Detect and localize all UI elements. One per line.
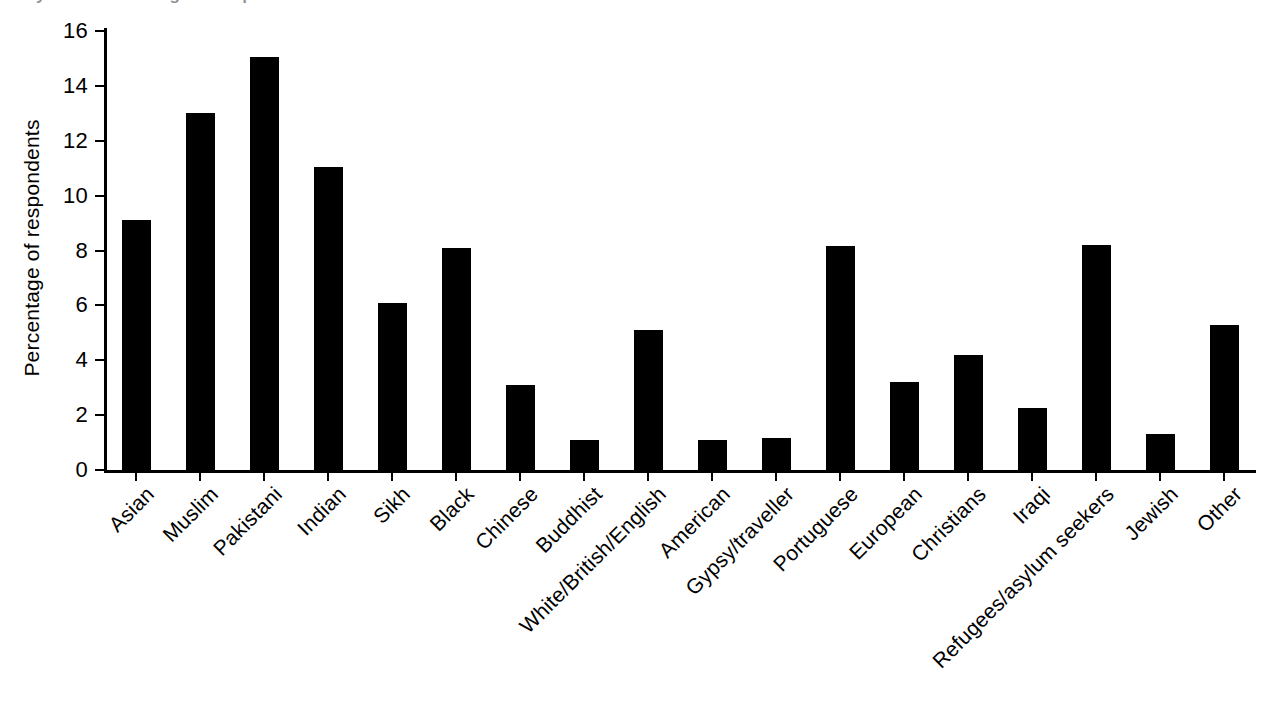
x-axis-labels: AsianMuslimPakistaniIndianSikhBlackChine… (0, 0, 1284, 705)
x-tick-label: Jewish (1166, 436, 1229, 499)
x-tick-label: Indian (334, 441, 392, 499)
bar-chart-figure: y-axis: Percentage of respondents Percen… (0, 0, 1284, 705)
x-tick-label-text: Iraqi (1008, 482, 1055, 529)
x-tick-label: Iraqi (1038, 452, 1085, 499)
x-tick-label: Gypsy/traveller (782, 381, 900, 499)
x-tick-label: Sikh (398, 453, 444, 499)
x-tick-label-text: Indian (293, 482, 351, 540)
x-tick-label: Black (462, 445, 516, 499)
x-tick-label-text: Asian (104, 482, 159, 537)
x-tick-label: Asian (142, 444, 197, 499)
x-tick-label-text: Black (425, 482, 479, 536)
x-tick-label: Other (1230, 444, 1284, 499)
x-tick-label-text: Other (1192, 482, 1247, 537)
x-tick-label-text: Sikh (369, 482, 415, 528)
x-tick-label-text: Jewish (1120, 482, 1183, 545)
